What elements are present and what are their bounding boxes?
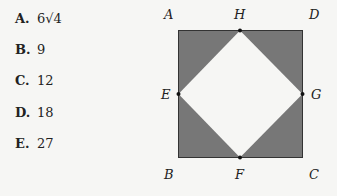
label-d: D [308,7,320,22]
point-g [301,92,305,96]
label-a: A [163,7,173,22]
label-c: C [309,167,319,182]
point-h [238,29,242,33]
point-f [238,156,242,160]
label-h: H [233,7,246,22]
label-g: G [311,87,321,102]
geometry-figure: A H D E G B F C [0,0,337,196]
point-e [177,92,181,96]
label-b: B [163,167,174,182]
label-e: E [160,87,171,102]
label-f: F [234,167,245,182]
